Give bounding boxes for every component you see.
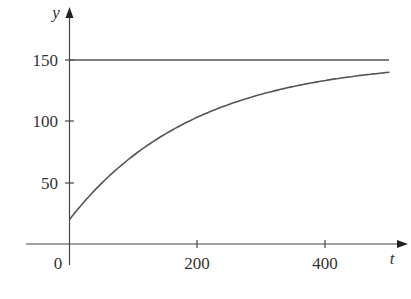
xtick-label-200: 200 [184, 254, 210, 273]
chart: 150 100 50 0 200 400 t y [0, 0, 411, 299]
ytick-label-150: 150 [33, 51, 59, 70]
origin-label: 0 [54, 254, 63, 273]
ytick-label-50: 50 [41, 174, 58, 193]
x-axis-label: t [390, 249, 396, 268]
xtick-label-400: 400 [312, 254, 338, 273]
y-axis-label: y [50, 3, 60, 22]
ytick-label-100: 100 [33, 112, 59, 131]
x-axis-arrow-icon [397, 240, 408, 248]
y-axis-arrow-icon [66, 7, 74, 18]
solution-curve [70, 72, 390, 219]
